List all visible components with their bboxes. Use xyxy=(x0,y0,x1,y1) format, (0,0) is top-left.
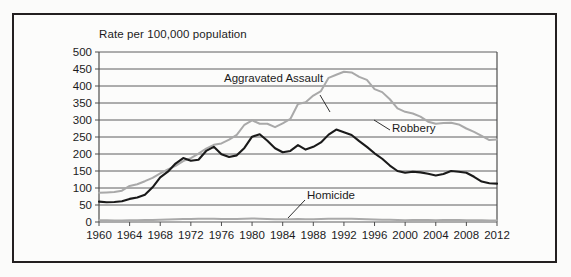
y-tick-label: 250 xyxy=(73,131,92,143)
x-tick-label: 2012 xyxy=(484,229,510,241)
y-tick-label: 200 xyxy=(73,148,92,160)
series-label-robbery: Robbery xyxy=(392,122,436,134)
y-tick-label: 100 xyxy=(73,182,92,194)
y-tick-label: 0 xyxy=(86,216,92,228)
x-tick-label: 1960 xyxy=(86,229,112,241)
y-tick-label: 400 xyxy=(73,80,92,92)
x-tick-label: 2008 xyxy=(454,229,480,241)
x-tick-label: 1988 xyxy=(301,229,327,241)
x-tick-label: 2004 xyxy=(423,229,449,241)
y-tick-label: 50 xyxy=(79,199,92,211)
plot-area: 0501001502002503003504004505001960196419… xyxy=(0,0,571,277)
x-tick-label: 1984 xyxy=(270,229,296,241)
x-tick-label: 1980 xyxy=(239,229,265,241)
x-tick-label: 2000 xyxy=(392,229,418,241)
x-tick-label: 1976 xyxy=(209,229,235,241)
x-tick-label: 1968 xyxy=(147,229,173,241)
y-tick-label: 300 xyxy=(73,114,92,126)
series-label-homicide: Homicide xyxy=(307,189,355,201)
x-tick-label: 1964 xyxy=(117,229,143,241)
series-label-aggravated-assault: Aggravated Assault xyxy=(224,72,324,84)
y-tick-label: 450 xyxy=(73,63,92,75)
chart-screenshot: Rate per 100,000 population 050100150200… xyxy=(0,0,571,277)
y-tick-label: 500 xyxy=(73,46,92,58)
x-tick-label: 1972 xyxy=(178,229,204,241)
y-tick-label: 350 xyxy=(73,97,92,109)
x-tick-label: 1996 xyxy=(362,229,388,241)
crime-rate-line-chart: 0501001502002503003504004505001960196419… xyxy=(0,0,571,277)
x-tick-label: 1992 xyxy=(331,229,357,241)
y-tick-label: 150 xyxy=(73,165,92,177)
